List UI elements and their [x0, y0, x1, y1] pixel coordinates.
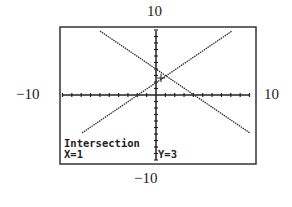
calculator-graph-screen: Intersection X=1 Y=3 [0, 0, 292, 207]
y-readout: Y=3 [158, 148, 177, 160]
x-readout: X=1 [64, 148, 83, 160]
increasing-line [82, 31, 232, 133]
decreasing-line [100, 31, 250, 133]
